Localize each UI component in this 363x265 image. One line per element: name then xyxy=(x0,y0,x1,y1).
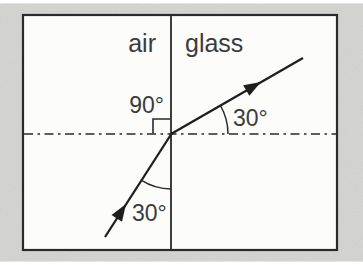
air-label: air xyxy=(128,29,156,57)
incident-angle-label: 30° xyxy=(132,200,167,226)
refraction-figure: air glass 90° 30° 30° xyxy=(0,0,363,265)
figure-frame xyxy=(23,15,337,250)
refraction-diagram-svg: air glass 90° 30° 30° xyxy=(0,0,363,265)
refraction-angle-label: 30° xyxy=(233,105,268,131)
normal-angle-label: 90° xyxy=(129,92,164,118)
glass-label: glass xyxy=(185,29,243,57)
